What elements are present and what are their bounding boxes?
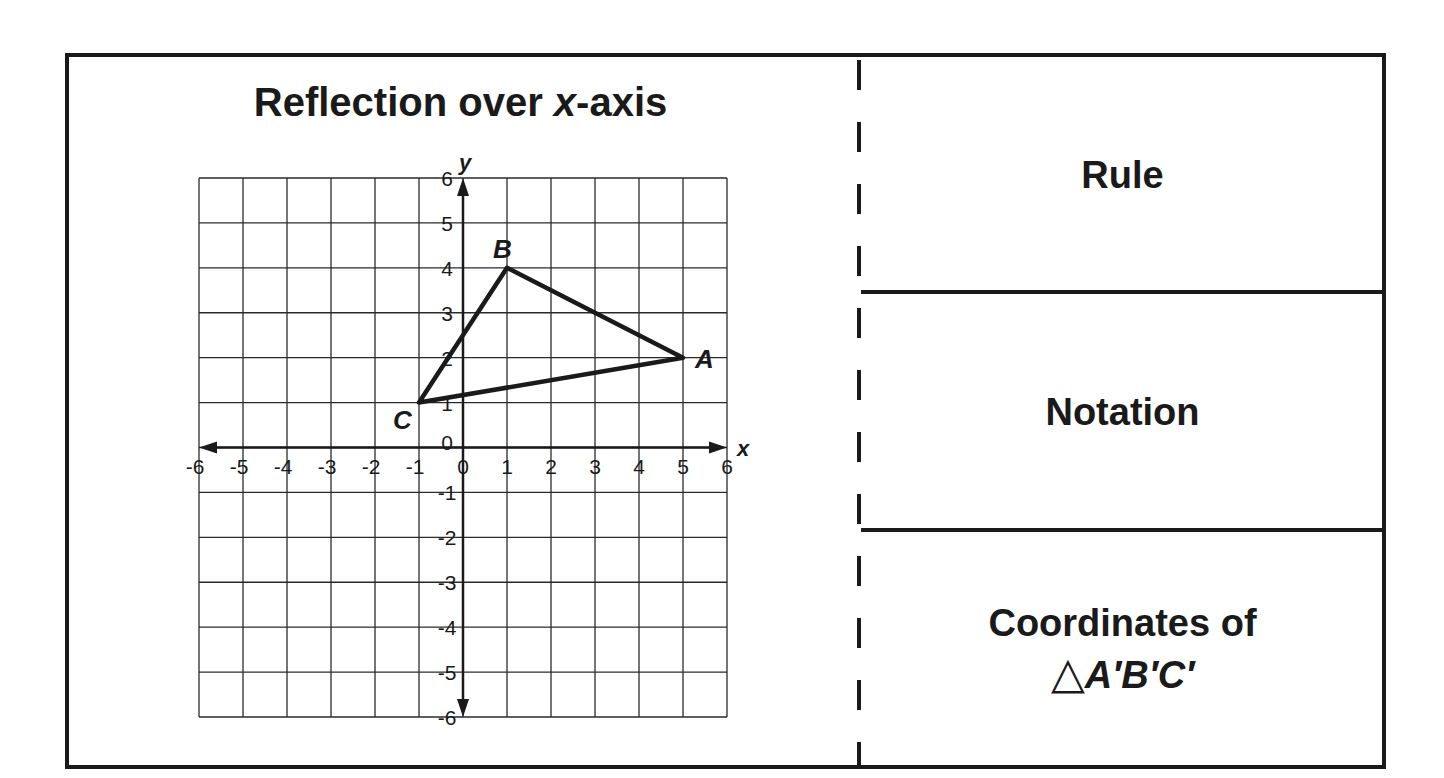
svg-text:6: 6: [441, 167, 453, 190]
rule-panel: Rule: [859, 57, 1386, 292]
svg-text:-6: -6: [186, 455, 205, 478]
svg-text:2: 2: [545, 455, 557, 478]
notation-panel: Notation: [859, 294, 1386, 530]
svg-text:-5: -5: [438, 661, 457, 684]
triangle-prime-label: A′B′C′: [1085, 654, 1195, 696]
axes: xy: [199, 150, 750, 717]
svg-text:-1: -1: [438, 481, 457, 504]
svg-text:0: 0: [457, 455, 469, 478]
svg-text:-1: -1: [406, 455, 425, 478]
svg-text:-6: -6: [438, 706, 457, 729]
triangle-icon: △: [1051, 648, 1085, 697]
rule-label: Rule: [1081, 150, 1163, 200]
svg-text:6: 6: [721, 455, 733, 478]
svg-text:5: 5: [677, 455, 689, 478]
coordinate-graph: xy -6-5-4-3-2-10123456-6-5-4-3-2-1012345…: [0, 0, 860, 778]
svg-text:y: y: [458, 150, 473, 175]
svg-text:0: 0: [441, 431, 453, 454]
svg-text:-3: -3: [318, 455, 337, 478]
svg-text:-4: -4: [438, 616, 457, 639]
coordinates-label: Coordinates of: [988, 598, 1256, 648]
svg-text:4: 4: [633, 455, 645, 478]
svg-text:3: 3: [441, 302, 453, 325]
svg-text:1: 1: [501, 455, 513, 478]
svg-text:B: B: [493, 234, 512, 264]
svg-text:4: 4: [441, 257, 453, 280]
svg-text:x: x: [736, 436, 750, 461]
svg-text:A: A: [694, 344, 714, 374]
svg-text:C: C: [393, 405, 413, 435]
notation-label: Notation: [1045, 387, 1199, 437]
svg-text:-4: -4: [274, 455, 293, 478]
svg-text:3: 3: [589, 455, 601, 478]
svg-text:-5: -5: [230, 455, 249, 478]
svg-text:-2: -2: [438, 526, 457, 549]
coordinates-panel: Coordinates of △A′B′C′: [859, 532, 1386, 765]
triangle-name: △A′B′C′: [1051, 648, 1195, 700]
svg-text:5: 5: [441, 212, 453, 235]
svg-text:-3: -3: [438, 571, 457, 594]
svg-text:-2: -2: [362, 455, 381, 478]
